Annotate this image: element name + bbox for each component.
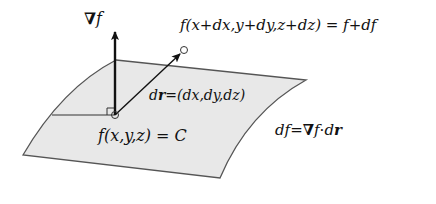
dr-components: =(dx,dy,dz) (165, 87, 245, 103)
displaced-point-label: f(x+dx,y+dy,z+dz) = f+df (180, 18, 376, 33)
d-symbol: d (149, 87, 158, 103)
df-equation-label: df=∇f·dr (275, 123, 342, 138)
equals-sign: = (290, 121, 303, 139)
df-symbol: df (275, 121, 290, 139)
r-vector-symbol: r (334, 121, 342, 139)
nabla-symbol: ∇ (84, 9, 96, 28)
dr-definition-label: dr=(dx,dy,dz) (149, 88, 245, 102)
d-symbol: d (324, 121, 334, 139)
f-symbol: f (96, 9, 102, 28)
displaced-point (181, 47, 188, 54)
surface-equation-label: f(x,y,z) = C (98, 128, 187, 144)
gradient-label: ∇f (84, 11, 102, 27)
gradient-diagram: ∇f f(x+dx,y+dy,z+dz) = f+df dr=(dx,dy,dz… (0, 0, 436, 204)
level-surface (23, 60, 306, 178)
nabla-symbol: ∇ (303, 121, 314, 139)
